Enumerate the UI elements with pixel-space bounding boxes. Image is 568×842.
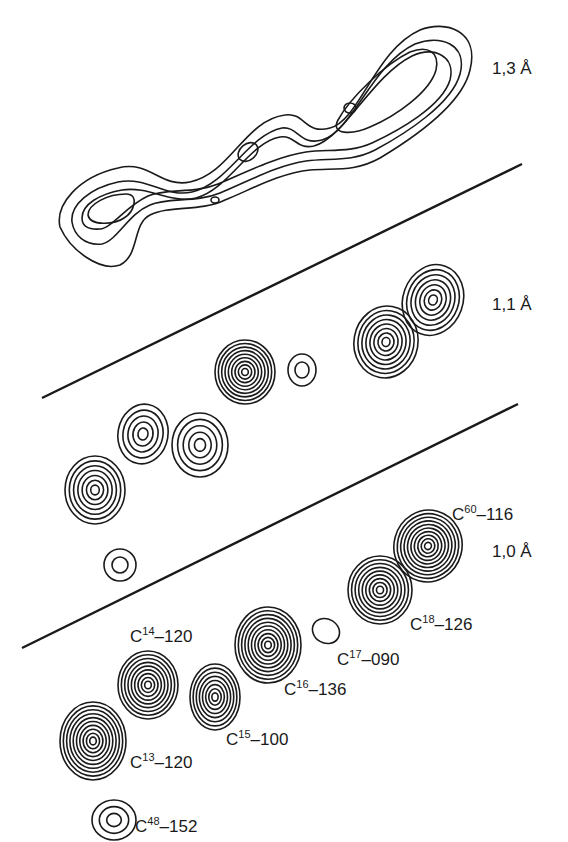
atom-label-c18: C18–126 <box>410 613 472 634</box>
peak-c17-ring <box>308 614 344 649</box>
peak-c16-ring <box>265 641 272 649</box>
peak-c60-ring <box>415 533 440 559</box>
peak-a-ring <box>427 294 439 307</box>
peak-c18-ring <box>362 571 398 609</box>
peak-h-ring <box>112 557 128 573</box>
contour-core-tiny <box>211 197 219 203</box>
peak-c14-ring <box>121 655 174 715</box>
resolution-label-1-3: 1,3 Å <box>492 59 532 78</box>
peak-c48-ring <box>107 813 122 826</box>
peak-g-ring <box>78 471 112 510</box>
peak-c15-ring <box>199 676 230 717</box>
peak-a-ring <box>410 275 456 325</box>
peak-c16-ring <box>242 615 295 676</box>
resolution-label-1-1: 1,1 Å <box>492 295 532 314</box>
peak-h-ring <box>104 549 136 581</box>
peak-c15-ring <box>212 693 218 701</box>
contour-core-left <box>88 194 134 223</box>
peak-b-ring <box>377 332 396 353</box>
atom-label-c48: C48–152 <box>135 815 197 836</box>
peak-d-ring <box>242 368 249 375</box>
peak-g-ring <box>86 480 103 499</box>
peak-f-ring <box>119 407 167 461</box>
peak-c18-ring <box>348 556 412 624</box>
contour-map-1-3 <box>59 26 471 266</box>
peak-a-ring <box>398 262 467 338</box>
peak-c18-ring <box>376 586 383 594</box>
peak-c16-ring <box>252 626 285 664</box>
peak-c16-ring <box>261 637 274 652</box>
peak-f-ring <box>125 414 161 455</box>
peak-d-ring <box>228 354 261 390</box>
contour-3 <box>82 52 451 229</box>
atom-label-c16: C16–136 <box>284 678 346 699</box>
atom-labels: C60–116C18–126C17–090C16–136C14–120C15–1… <box>130 503 513 836</box>
peak-g-ring <box>74 466 117 515</box>
peak-e-ring <box>194 439 205 452</box>
peak-c15-ring <box>190 664 240 730</box>
electron-density-figure: 1,3 Å 1,1 Å 1,0 Å C60–116C18–126C17–090C… <box>0 0 568 842</box>
peak-c14-ring <box>145 681 152 689</box>
peak-d-ring <box>215 340 275 404</box>
resolution-label-1-0: 1,0 Å <box>492 542 532 561</box>
peak-c13-ring <box>86 733 99 749</box>
atom-label-c15: C15–100 <box>226 728 288 749</box>
peak-e-ring <box>178 419 223 470</box>
atom-label-c60: C60–116 <box>452 503 513 524</box>
peak-g-ring <box>69 461 120 519</box>
peak-c13-ring <box>90 737 97 745</box>
peak-c16-ring <box>238 611 297 679</box>
peak-f-ring <box>137 427 149 441</box>
peak-e-ring <box>189 432 211 458</box>
peak-a-ring <box>421 287 444 312</box>
peak-d-ring <box>218 344 271 401</box>
atom-label-c14: C14–120 <box>130 625 192 646</box>
contour-map-1-0 <box>60 502 470 840</box>
peak-d-ring <box>238 365 251 379</box>
peak-c13-ring <box>67 710 120 772</box>
peak-g-ring <box>91 485 100 495</box>
peak-c15-ring <box>209 689 222 706</box>
peak-c48-ring <box>99 807 128 834</box>
peak-b-ring <box>367 321 405 362</box>
peak-c60-ring <box>420 537 437 554</box>
peak-c-ring <box>295 362 309 378</box>
peak-c-ring <box>288 354 316 386</box>
peak-b-ring <box>381 337 390 347</box>
peak-c60-ring <box>424 542 432 551</box>
peak-e-ring <box>172 413 228 477</box>
atom-label-c17: C17–090 <box>337 648 399 669</box>
peak-f-ring <box>131 420 155 447</box>
peak-c14-ring <box>131 666 164 704</box>
peak-c14-ring <box>118 651 178 719</box>
peak-c13-ring <box>77 722 110 761</box>
peak-c18-ring <box>352 560 409 620</box>
peak-c13-ring <box>63 706 122 776</box>
contour-core-mid <box>234 139 261 165</box>
peak-c18-ring <box>373 582 387 597</box>
peak-b-ring <box>372 327 400 358</box>
peak-c14-ring <box>141 677 154 692</box>
atom-label-c13: C13–120 <box>130 751 192 772</box>
